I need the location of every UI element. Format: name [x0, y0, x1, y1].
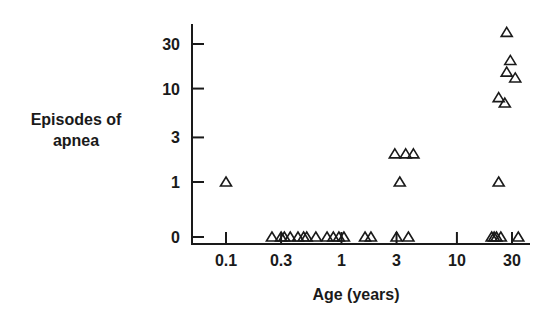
y-axis-ticks: 0131030 — [162, 36, 204, 246]
triangle-marker — [501, 67, 512, 76]
y-tick-label: 10 — [162, 81, 180, 98]
triangle-marker — [221, 177, 232, 186]
y-axis-title: Episodes of apnea — [31, 111, 122, 149]
y-tick-label: 3 — [171, 129, 180, 146]
triangle-marker — [493, 177, 504, 186]
y-tick-label: 30 — [162, 36, 180, 53]
scatter-chart: Episodes of apnea 0131030 0.10.3131030 A… — [0, 0, 548, 312]
x-tick-label: 0.3 — [270, 252, 292, 269]
x-tick-label: 10 — [448, 252, 466, 269]
triangle-marker — [499, 98, 510, 107]
axes — [192, 24, 530, 244]
x-axis-title: Age (years) — [312, 286, 399, 303]
triangle-marker — [403, 232, 414, 241]
triangle-marker — [505, 55, 516, 64]
data-points — [221, 27, 524, 241]
triangle-marker — [310, 232, 321, 241]
triangle-marker — [394, 177, 405, 186]
x-tick-label: 0.1 — [215, 252, 237, 269]
y-axis-title-line2: apnea — [53, 132, 99, 149]
y-tick-label: 0 — [171, 229, 180, 246]
y-axis-title-line1: Episodes of — [31, 111, 122, 128]
x-tick-label: 1 — [337, 252, 346, 269]
triangle-marker — [501, 27, 512, 36]
y-tick-label: 1 — [171, 174, 180, 191]
x-tick-label: 3 — [392, 252, 401, 269]
triangle-marker — [513, 232, 524, 241]
triangle-marker — [389, 149, 400, 158]
x-tick-label: 30 — [503, 252, 521, 269]
triangle-marker — [408, 149, 419, 158]
